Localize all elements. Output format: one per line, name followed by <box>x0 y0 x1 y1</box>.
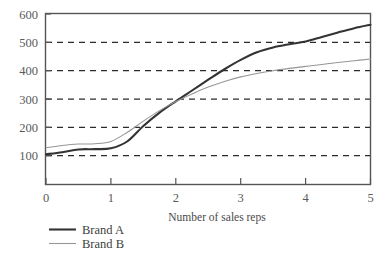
y-tick-label-600: 600 <box>19 8 38 22</box>
x-tick-label-2: 2 <box>173 191 179 205</box>
legend-label-brand-b: Brand B <box>82 237 124 251</box>
line-chart: 100200300400500600 012345 Number of sale… <box>0 0 389 258</box>
series-layer <box>46 25 371 154</box>
x-tick-labels: 012345 <box>43 191 374 205</box>
y-tick-marks <box>46 14 51 156</box>
x-tick-label-3: 3 <box>238 191 244 205</box>
chart-legend: Brand A Brand B <box>49 223 124 251</box>
x-tick-label-0: 0 <box>43 191 49 205</box>
y-tick-label-400: 400 <box>19 64 38 78</box>
series-line-brand-a <box>46 25 371 154</box>
chart-container: 100200300400500600 012345 Number of sale… <box>0 0 389 258</box>
x-tick-marks <box>46 178 371 184</box>
y-tick-label-200: 200 <box>19 121 38 135</box>
x-axis-title: Number of sales reps <box>168 211 266 224</box>
gridlines <box>46 42 371 155</box>
x-tick-label-5: 5 <box>367 191 373 205</box>
y-tick-label-300: 300 <box>19 93 38 107</box>
series-line-brand-b <box>46 59 371 148</box>
y-tick-labels: 100200300400500600 <box>19 8 38 164</box>
legend-label-brand-a: Brand A <box>82 223 124 237</box>
y-tick-label-100: 100 <box>19 149 38 163</box>
y-tick-label-500: 500 <box>19 36 38 50</box>
x-tick-label-1: 1 <box>108 191 114 205</box>
x-tick-label-4: 4 <box>302 191 309 205</box>
